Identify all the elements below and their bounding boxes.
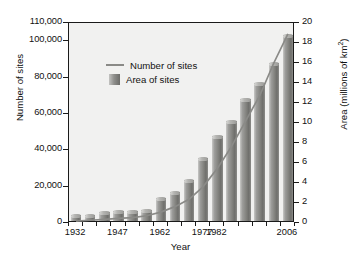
legend: Number of sites Area of sites [106,58,197,86]
y-axis-right-tick [294,22,299,23]
y-axis-right-tick-label: 16 [302,56,312,66]
y-axis-right-tick-label: 6 [302,156,307,166]
y-axis-right-tick-label: 20 [302,16,312,26]
legend-label: Number of sites [130,60,197,71]
x-axis-tick [153,222,154,226]
bar-marker-icon [109,74,120,85]
y-axis-right-tick [294,122,299,123]
y-axis-right-title-close: ) [338,38,349,41]
y-axis-left-tick [63,113,68,114]
x-axis-tick [68,222,69,226]
y-axis-right-tick-label: 12 [302,96,312,106]
y-axis-right-tick [294,182,299,183]
y-axis-right-tick-label: 4 [302,176,307,186]
x-axis-tick [110,222,111,226]
legend-item-area-of-sites: Area of sites [106,72,197,86]
x-axis-tick [125,222,126,226]
y-axis-right-tick [294,82,299,83]
y-axis-left-tick [63,77,68,78]
legend-label: Area of sites [126,74,179,85]
x-axis-tick [96,222,97,226]
y-axis-left-tick-label: 60,000 [34,107,62,117]
x-axis-tick [280,222,281,226]
y-axis-left-tick-label: 40,000 [34,143,62,153]
x-axis-tick [223,222,224,226]
y-axis-left-title: Number of sites [14,38,25,138]
line-series-svg [69,23,295,223]
chart-figure: Number of sites Area (millions of km2) Y… [0,0,361,267]
x-axis-tick [195,222,196,226]
superscript-two: 2 [337,42,344,46]
y-axis-left-tick [63,149,68,150]
x-axis-tick-label: 2006 [277,227,298,237]
x-axis-tick-label: 1947 [107,227,128,237]
y-axis-left-tick-label: 110,000 [30,16,62,26]
legend-item-number-of-sites: Number of sites [106,58,197,72]
x-axis-tick-label: 1932 [65,227,86,237]
x-axis-tick [82,222,83,226]
y-axis-right-title-text: Area (millions of km [338,46,349,130]
x-axis-tick-label: 1962 [149,227,170,237]
x-axis-tick [238,222,239,226]
y-axis-left-tick-label: 80,000 [34,71,62,81]
y-axis-right-tick-label: 2 [302,196,307,206]
y-axis-left-tick [63,22,68,23]
y-axis-right-tick [294,62,299,63]
y-axis-right-tick-label: 0 [302,216,307,226]
x-axis-tick [139,222,140,226]
y-axis-left-tick-label: 0 [57,216,62,226]
y-axis-right-tick-label: 14 [302,76,312,86]
y-axis-right-tick-label: 18 [302,36,312,46]
y-axis-left-tick [63,186,68,187]
y-axis-left-tick-label: 20,000 [34,180,62,190]
x-axis-tick [266,222,267,226]
y-axis-right-tick [294,162,299,163]
y-axis-right-title: Area (millions of km2) [337,14,349,154]
line-layer [69,23,293,221]
y-axis-right-tick-label: 8 [302,136,307,146]
line-marker-icon [106,64,124,66]
x-axis-tick-label: 1982 [206,227,227,237]
x-axis-tick [209,222,210,226]
x-axis-tick [252,222,253,226]
y-axis-right-tick [294,102,299,103]
y-axis-left-tick-label: 100,000 [29,34,62,44]
y-axis-right-tick-label: 10 [302,116,312,126]
plot-area: Number of sites Area of sites [68,22,294,222]
x-axis-tick [181,222,182,226]
y-axis-left-tick [63,40,68,41]
x-axis-title: Year [0,241,361,252]
y-axis-right-tick [294,142,299,143]
y-axis-right-tick [294,42,299,43]
y-axis-right-tick [294,202,299,203]
x-axis-tick [294,222,295,226]
x-axis-tick [167,222,168,226]
